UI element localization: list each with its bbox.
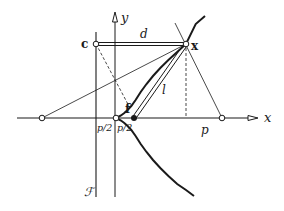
point-c	[93, 41, 99, 47]
x-axis-label: x	[264, 110, 272, 125]
parabola-diagram: y x c x f d l p p/2 p/2 ℱ	[0, 0, 284, 211]
y-axis-arrow-icon	[113, 12, 118, 22]
point-vertex	[113, 115, 119, 121]
distance-d-label: d	[140, 27, 148, 41]
point-normal-intercept	[219, 115, 225, 121]
x-axis-arrow-icon	[248, 116, 258, 121]
distance-l-line	[133, 43, 185, 117]
half-p-left-label: p/2	[97, 122, 112, 133]
distance-l-label: l	[162, 83, 166, 97]
directrix-label: ℱ	[84, 185, 96, 199]
distance-p-label: p	[201, 123, 209, 137]
point-x	[183, 41, 189, 47]
focus-label: f	[125, 102, 131, 116]
point-tangent-intercept	[39, 115, 45, 121]
tangent-line	[42, 44, 186, 118]
point-focus	[131, 115, 137, 121]
distance-l-line-inner	[136, 45, 188, 119]
y-axis-label: y	[120, 10, 129, 25]
point-c-label: c	[81, 37, 88, 51]
normal-line	[175, 23, 222, 118]
half-p-right-label: p/2	[117, 122, 132, 133]
point-x-label: x	[191, 39, 199, 53]
dashed-c-to-f	[96, 44, 130, 108]
